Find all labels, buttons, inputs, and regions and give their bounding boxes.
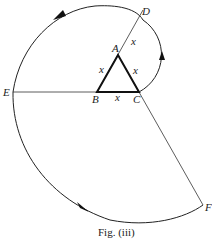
arc-DE [13, 6, 143, 92]
label-E: E [2, 86, 10, 98]
label-F: F [204, 201, 212, 213]
label-D: D [141, 5, 150, 17]
label-C: C [133, 93, 141, 105]
figure-caption: Fig. (iii) [98, 226, 135, 239]
side-label-BC: x [114, 91, 120, 103]
side-label-AD: x [130, 35, 136, 47]
label-A: A [111, 42, 119, 54]
side-label-AB: x [98, 63, 104, 75]
arrow-up-icon [159, 51, 165, 60]
label-B: B [92, 93, 99, 105]
arrow-down-right-icon [77, 202, 89, 212]
arc-EF [13, 92, 203, 223]
side-label-AC: x [132, 64, 138, 76]
involute-diagram: A B C D E F x x x x Fig. (iii) [0, 0, 212, 240]
arc-CD [139, 20, 161, 92]
